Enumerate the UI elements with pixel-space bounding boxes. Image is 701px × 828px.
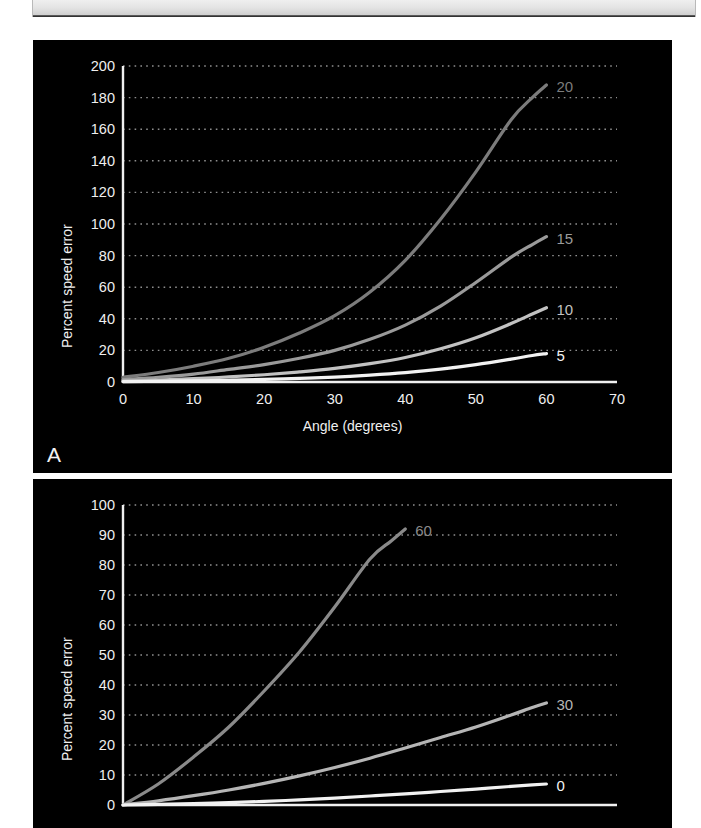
y-tick-label: 40: [99, 677, 115, 693]
y-tick-label: 30: [99, 707, 115, 723]
y-tick-label: 80: [99, 557, 115, 573]
x-tick-label: 60: [538, 391, 554, 407]
chart-a-y-axis-title: Percent speed error: [59, 224, 75, 348]
chart-a-svg: 2015105: [33, 40, 672, 473]
panel-letter-a: A: [47, 443, 62, 467]
y-tick-label: 90: [99, 527, 115, 543]
series-line-15: [123, 237, 546, 380]
series-label-10: 10: [556, 301, 573, 318]
x-tick-label: 70: [609, 391, 625, 407]
y-tick-label: 10: [99, 767, 115, 783]
y-tick-label: 140: [91, 153, 115, 169]
series-label-20: 20: [556, 78, 573, 95]
x-tick-label: 50: [468, 391, 484, 407]
y-tick-label: 100: [91, 216, 115, 232]
series-label-5: 5: [556, 347, 564, 364]
y-tick-label: 180: [91, 90, 115, 106]
x-tick-label: 20: [256, 391, 272, 407]
y-tick-label: 50: [99, 647, 115, 663]
series-label-15: 15: [556, 230, 573, 247]
y-tick-label: 20: [99, 737, 115, 753]
y-tick-label: 200: [91, 58, 115, 74]
series-label-0: 0: [556, 777, 564, 794]
y-tick-label: 80: [99, 248, 115, 264]
y-tick-label: 100: [91, 497, 115, 513]
x-tick-label: 10: [185, 391, 201, 407]
y-tick-label: 120: [91, 184, 115, 200]
series-label-60: 60: [415, 522, 432, 539]
y-tick-label: 160: [91, 121, 115, 137]
x-tick-label: 30: [327, 391, 343, 407]
series-line-60: [123, 529, 405, 805]
chart-a-plot-area: 2015105: [33, 40, 672, 473]
y-tick-label: 40: [99, 311, 115, 327]
figure-panel-b: 60300 Percent speed error 01020304050607…: [33, 479, 672, 828]
y-tick-label: 0: [107, 797, 115, 813]
page-edge-sliver: [32, 0, 696, 17]
chart-a-x-axis-title: Angle (degrees): [33, 418, 672, 434]
chart-b-plot-area: 60300: [33, 479, 672, 828]
x-tick-label: 0: [119, 391, 127, 407]
y-tick-label: 60: [99, 617, 115, 633]
y-tick-label: 20: [99, 342, 115, 358]
series-label-30: 30: [556, 696, 573, 713]
y-tick-label: 0: [107, 374, 115, 390]
y-tick-label: 70: [99, 587, 115, 603]
y-tick-label: 60: [99, 279, 115, 295]
chart-b-y-axis-title: Percent speed error: [59, 637, 75, 761]
figure-panel-a: 2015105 Percent speed error Angle (degre…: [33, 40, 672, 473]
chart-b-svg: 60300: [33, 479, 672, 828]
x-tick-label: 40: [397, 391, 413, 407]
series-line-0: [123, 784, 546, 805]
